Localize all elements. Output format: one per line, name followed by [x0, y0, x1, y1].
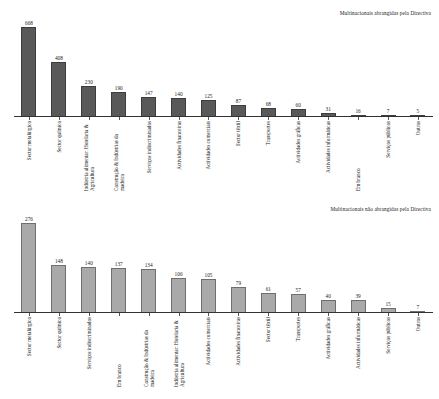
category-slot: Actividades informáticas [313, 119, 343, 195]
category-label: Actividades informáticas [325, 121, 331, 173]
bar-slot: 40 [313, 209, 343, 313]
bar-group-covered: 668408230190147140125876860311675 [14, 14, 433, 117]
category-slot: Indústria alimentar: Hotelaria & Agricul… [164, 315, 194, 395]
category-slot: Actividades informáticas [343, 315, 373, 395]
x-axis-labels-covered: Sector metalúrgicoSector químicoIndústri… [14, 119, 433, 195]
bar-group-notcovered: 2761481401371341061057961574039157 [14, 209, 433, 313]
category-slot: Serviços indiscriminados [74, 315, 104, 395]
bar-value-label: 7 [417, 304, 420, 310]
bar-value-label: 31 [326, 106, 331, 112]
bar [21, 27, 36, 117]
bar-slot: 230 [74, 14, 104, 117]
bar [201, 100, 216, 117]
category-label: Actividades gráficas [325, 317, 331, 360]
bar-value-label: 134 [145, 262, 153, 268]
bar-slot: 79 [223, 209, 253, 313]
category-slot: Transportes [253, 119, 283, 195]
category-label: Actividades financeiras [235, 317, 241, 366]
bar-value-label: 105 [205, 272, 213, 278]
bar [171, 278, 186, 313]
bar-slot: 106 [164, 209, 194, 313]
bar [171, 98, 186, 117]
category-label: Sector metalúrgico [26, 121, 32, 160]
bar-value-label: 230 [85, 79, 93, 85]
bar-value-label: 668 [25, 20, 33, 26]
bar-slot: 276 [14, 209, 44, 313]
category-label: Sector químico [56, 121, 62, 153]
category-label: Outros [415, 121, 421, 135]
bar [201, 279, 216, 313]
category-label: Serviços públicos [385, 121, 391, 158]
bar-value-label: 140 [175, 91, 183, 97]
category-slot: Serviços públicos [373, 315, 403, 395]
bar-value-label: 140 [85, 260, 93, 266]
bar-value-label: 408 [55, 55, 63, 61]
bar-slot: 15 [373, 209, 403, 313]
category-slot: Em branco [343, 119, 373, 195]
bar-slot: 125 [194, 14, 224, 117]
bar-value-label: 39 [355, 293, 360, 299]
bar [81, 86, 96, 117]
bar-value-label: 68 [266, 101, 271, 107]
category-label: Transportes [295, 317, 301, 341]
category-label: Actividades comerciais [205, 121, 211, 170]
x-axis-line-covered [14, 116, 433, 117]
bar-value-label: 276 [25, 216, 33, 222]
category-label: Sector têxtil [265, 317, 271, 342]
bar-slot: 190 [104, 14, 134, 117]
bar-slot: 68 [253, 14, 283, 117]
category-slot: Sector metalúrgico [14, 119, 44, 195]
bar-value-label: 147 [145, 90, 153, 96]
category-slot: Sector químico [44, 315, 74, 395]
category-slot: Outros [403, 315, 433, 395]
bar [111, 92, 126, 118]
category-label: Sector químico [56, 317, 62, 349]
bar-value-label: 190 [115, 85, 123, 91]
bar [111, 268, 126, 313]
category-label: Construção & Indústrias da madeira [142, 317, 154, 387]
bar-slot: 408 [44, 14, 74, 117]
bar-slot: 7 [373, 14, 403, 117]
bar-slot: 39 [343, 209, 373, 313]
bar-slot: 134 [134, 209, 164, 313]
category-label: Serviços públicos [385, 317, 391, 354]
bar-value-label: 5 [417, 108, 420, 114]
category-slot: Outros [403, 119, 433, 195]
bar-value-label: 106 [175, 271, 183, 277]
category-label: Transportes [265, 121, 271, 145]
bar-value-label: 60 [296, 102, 301, 108]
bar-value-label: 40 [326, 293, 331, 299]
bar-value-label: 125 [205, 93, 213, 99]
category-slot: Serviços públicos [373, 119, 403, 195]
category-label: Em branco [355, 121, 361, 191]
bar-slot: 61 [253, 209, 283, 313]
bar-slot: 147 [134, 14, 164, 117]
category-slot: Sector têxtil [253, 315, 283, 395]
category-slot: Indústria alimentar: Hotelaria & Agricul… [74, 119, 104, 195]
category-slot: Transportes [283, 315, 313, 395]
category-label: Sector têxtil [235, 121, 241, 146]
category-label: Actividades comerciais [205, 317, 211, 366]
category-slot: Em branco [104, 315, 134, 395]
bar-value-label: 137 [115, 261, 123, 267]
category-label: Actividades gráficas [295, 121, 301, 164]
x-axis-line-notcovered [14, 312, 433, 313]
bar-slot: 60 [283, 14, 313, 117]
bar [51, 265, 66, 313]
category-slot: Sector têxtil [223, 119, 253, 195]
category-label: Indústria alimentar: Hotelaria & Agricul… [172, 317, 184, 387]
category-slot: Sector químico [44, 119, 74, 195]
category-label: Sector metalúrgico [26, 317, 32, 356]
category-label: Serviços indiscriminados [86, 317, 92, 369]
category-label: Em branco [116, 317, 122, 387]
bar-slot: 137 [104, 209, 134, 313]
bar-value-label: 148 [55, 258, 63, 264]
category-slot: Actividades gráficas [283, 119, 313, 195]
chart-panel-covered: Multinacionais abrangidas pela Directiva… [0, 0, 439, 199]
category-label: Actividades informáticas [355, 317, 361, 369]
bar [291, 294, 306, 313]
bar [141, 97, 156, 117]
bar-slot: 140 [74, 209, 104, 313]
bar [51, 62, 66, 117]
bar-slot: 148 [44, 209, 74, 313]
